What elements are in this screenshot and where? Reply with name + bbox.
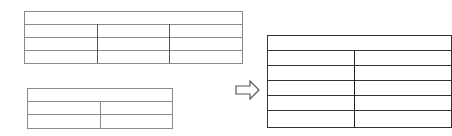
table-column-divider: [169, 24, 170, 63]
merged-result-table: [267, 35, 452, 128]
table-row-divider: [268, 95, 451, 96]
table-row-divider: [268, 110, 451, 111]
source-table-1: [24, 11, 243, 64]
table-row-divider: [25, 50, 242, 51]
table-column-divider: [354, 50, 355, 127]
table-row-divider: [268, 50, 451, 51]
table-row-divider: [268, 65, 451, 66]
table-column-divider: [100, 101, 101, 128]
table-row-divider: [25, 37, 242, 38]
source-table-2: [27, 88, 173, 129]
table-row-divider: [268, 80, 451, 81]
table-row-divider: [25, 24, 242, 25]
table-column-divider: [97, 24, 98, 63]
right-arrow-outline-icon: [235, 80, 261, 100]
